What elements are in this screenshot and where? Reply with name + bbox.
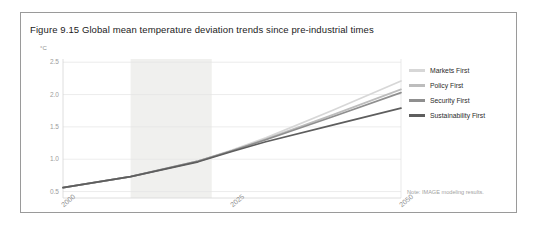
legend-item[interactable]: Markets First [409,63,514,78]
series-lines [63,81,401,188]
legend-item[interactable]: Security First [409,93,514,108]
y-tick-label: 1.5 [37,123,59,130]
series-line-markets-first [63,81,401,188]
y-tick-label: 2.0 [37,91,59,98]
legend-swatch-icon [409,114,425,116]
legend-item-label: Policy First [430,82,463,89]
historical-shaded-band [131,59,212,198]
source-note: Note: IMAGE modeling results. [407,189,484,195]
series-line-sustainability-first [63,108,401,188]
legend-item-label: Security First [430,97,470,104]
series-line-policy-first [63,89,401,187]
series-line-security-first [63,93,401,188]
y-tick-label: 2.5 [37,58,59,65]
chart-legend: Markets FirstPolicy FirstSecurity FirstS… [409,63,514,123]
axis-lines [63,59,401,198]
legend-item[interactable]: Policy First [409,78,514,93]
figure-container: Figure 9.15 Global mean temperature devi… [20,12,517,213]
legend-item-label: Markets First [430,67,469,74]
legend-swatch-icon [409,84,425,86]
legend-item[interactable]: Sustainability First [409,108,514,123]
y-tick-label: 0.5 [37,188,59,195]
legend-item-label: Sustainability First [430,112,485,119]
gridlines [63,62,401,191]
legend-swatch-icon [409,69,425,71]
y-tick-label: 1.0 [37,155,59,162]
legend-swatch-icon [409,99,425,101]
